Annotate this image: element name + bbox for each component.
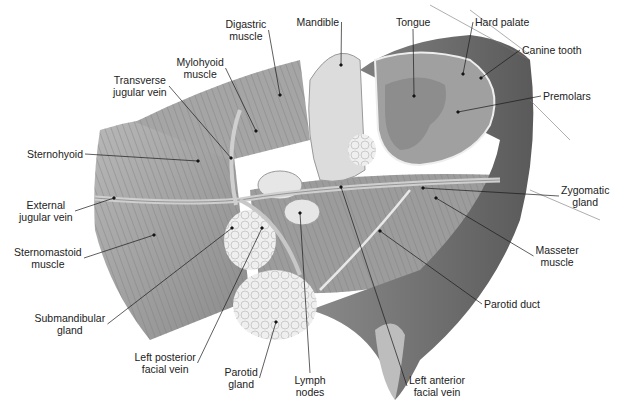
illustration <box>0 0 627 409</box>
label-external-jugular-vein: Externaljugular vein <box>19 199 73 223</box>
label-left-posterior-facial-vein: Left posteriorfacial vein <box>135 351 196 375</box>
leader-mandible <box>341 22 342 65</box>
label-digastric-muscle: Digastricmuscle <box>226 18 267 42</box>
label-sternohyoid: Sternohyoid <box>27 148 83 160</box>
label-parotid-gland: Parotidgland <box>225 366 258 390</box>
label-line: muscle <box>14 258 82 270</box>
label-line: muscle <box>536 256 579 268</box>
label-tongue: Tongue <box>396 16 430 28</box>
label-canine-tooth: Canine tooth <box>522 44 582 56</box>
label-parotid-duct: Parotid duct <box>484 298 540 310</box>
label-line: Left anterior <box>409 374 465 386</box>
label-masseter-muscle: Massetermuscle <box>536 244 579 268</box>
anatomy-diagram: DigastricmuscleMandibleTongueHard palate… <box>0 0 627 409</box>
label-mylohyoid-muscle: Mylohyoidmuscle <box>177 56 224 80</box>
label-line: Premolars <box>543 90 591 102</box>
label-hard-palate: Hard palate <box>475 16 529 28</box>
label-line: muscle <box>226 30 267 42</box>
label-submandibular-gland: Submandibulargland <box>35 312 106 336</box>
label-line: muscle <box>177 68 224 80</box>
label-line: Lymph <box>295 374 326 386</box>
label-line: Mandible <box>297 16 340 28</box>
label-zygomatic-gland: Zygomaticgland <box>561 184 609 208</box>
label-line: jugular vein <box>19 211 73 223</box>
sublingual-gland-shape <box>348 134 376 166</box>
label-line: gland <box>561 196 609 208</box>
label-line: Canine tooth <box>522 44 582 56</box>
label-line: Sternomastoid <box>14 246 82 258</box>
lymph-node-shape-2 <box>284 199 320 225</box>
label-line: Tongue <box>396 16 430 28</box>
label-line: Hard palate <box>475 16 529 28</box>
label-line: facial vein <box>135 363 196 375</box>
label-left-anterior-facial-vein: Left anteriorfacial vein <box>409 374 465 398</box>
label-line: Mylohyoid <box>177 56 224 68</box>
label-line: Sternohyoid <box>27 148 83 160</box>
label-premolars: Premolars <box>543 90 591 102</box>
label-line: Digastric <box>226 18 267 30</box>
label-line: nodes <box>295 386 326 398</box>
label-line: Masseter <box>536 244 579 256</box>
label-line: Parotid <box>225 366 258 378</box>
label-line: gland <box>35 324 106 336</box>
label-transverse-jugular-vein: Transversejugular vein <box>113 74 167 98</box>
label-lymph-nodes: Lymphnodes <box>295 374 326 398</box>
label-line: jugular vein <box>113 86 167 98</box>
label-line: Submandibular <box>35 312 106 324</box>
label-line: External <box>19 199 73 211</box>
label-mandible: Mandible <box>297 16 340 28</box>
label-sternomastoid-muscle: Sternomastoidmuscle <box>14 246 82 270</box>
label-line: facial vein <box>409 386 465 398</box>
label-line: Zygomatic <box>561 184 609 196</box>
label-line: Parotid duct <box>484 298 540 310</box>
label-line: Transverse <box>113 74 167 86</box>
label-line: gland <box>225 378 258 390</box>
label-line: Left posterior <box>135 351 196 363</box>
